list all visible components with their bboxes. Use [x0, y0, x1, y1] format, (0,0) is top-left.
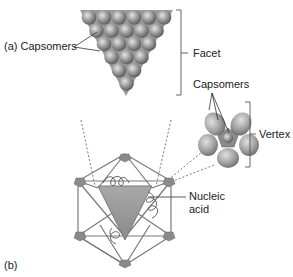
capsomer-sphere [142, 10, 157, 25]
capsomer-sphere [97, 37, 112, 52]
nucleic-acid-label-line2: acid [189, 203, 209, 215]
capsomer-sphere [119, 76, 134, 91]
facet-label: Facet [193, 47, 221, 59]
icosahedron-front-face [98, 186, 152, 240]
capsomer-sphere [149, 23, 164, 38]
capsomer-sphere [104, 23, 119, 38]
capsomer-sphere [134, 23, 149, 38]
panel-a-label: (a) Capsomers [4, 40, 77, 52]
capsomers-label: Capsomers [193, 78, 249, 90]
capsomer-sphere [104, 50, 119, 65]
capsomer-sphere [97, 10, 112, 25]
capsomer-sphere [127, 10, 142, 25]
facet-triangle [80, 10, 173, 96]
panel-b-label: (b) [4, 259, 17, 271]
capsomer-sphere [112, 37, 127, 52]
capsomer-sphere [127, 63, 142, 78]
capsomer-sphere [142, 37, 157, 52]
capsomer-sphere [82, 10, 97, 25]
capsomer-sphere [119, 50, 134, 65]
nucleic-acid-label-line1: Nucleic [189, 190, 225, 202]
capsomer-sphere [134, 50, 149, 65]
capsomer-sphere [127, 37, 142, 52]
capsomer-sphere [157, 10, 172, 25]
facet-bracket [176, 10, 188, 95]
capsomer-sphere [112, 10, 127, 25]
capsomer-sphere [119, 23, 134, 38]
projection-lines [81, 120, 214, 186]
vertex-label: Vertex [259, 128, 290, 140]
capsomer-sphere [112, 63, 127, 78]
